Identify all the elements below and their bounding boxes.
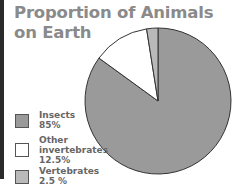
swatch-vertebrates [15,170,29,184]
legend-label: Other invertebrates [39,135,108,155]
legend-value: 85% [39,120,61,130]
legend-value: 2.5 % [39,176,67,185]
legend-label: Vertebrates [39,166,99,176]
legend-value: 12.5% [39,155,70,165]
legend-label: Insects [39,110,75,120]
swatch-other-invertebrates [15,143,29,157]
pie-chart [0,0,232,185]
swatch-insects [15,114,29,128]
